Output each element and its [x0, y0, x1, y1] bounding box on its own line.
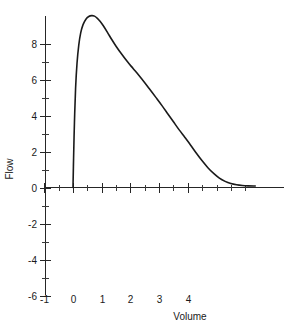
x-tick-label-4: 4 [186, 294, 192, 305]
y-tick-label-2: 2 [31, 147, 37, 158]
y-tick-label--2: -2 [28, 219, 37, 230]
y-tick-label-8: 8 [31, 39, 37, 50]
x-tick-label--1: -1 [40, 294, 49, 305]
chart-canvas: -6-4-202468 -101234 Volume Flow [0, 0, 293, 325]
x-axis-tick-labels: -101234 [40, 294, 192, 305]
y-tick-label-6: 6 [31, 75, 37, 86]
y-tick-label-0: 0 [31, 183, 37, 194]
x-tick-label-2: 2 [128, 294, 134, 305]
y-axis-tick-labels: -6-4-202468 [28, 39, 37, 302]
y-axis-title: Flow [4, 158, 15, 180]
y-tick-label--4: -4 [28, 255, 37, 266]
y-tick-label-4: 4 [31, 111, 37, 122]
y-tick-label--6: -6 [28, 291, 37, 302]
x-tick-label-1: 1 [100, 294, 106, 305]
flow-volume-chart-figure: -6-4-202468 -101234 Volume Flow [0, 0, 293, 325]
x-tick-label-0: 0 [71, 294, 77, 305]
flow-volume-curve [73, 16, 255, 188]
x-tick-label-3: 3 [157, 294, 163, 305]
x-axis-title: Volume [173, 311, 207, 322]
